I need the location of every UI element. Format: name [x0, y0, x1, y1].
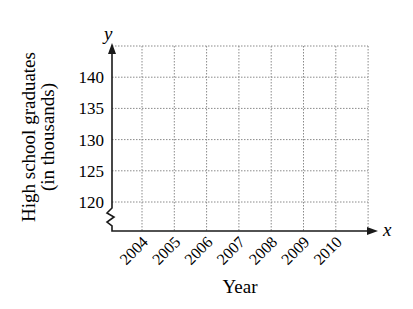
chart: y x 120125130135140 20042005200620072008… — [0, 0, 413, 309]
y-axis-title: High school graduates (in thousands) — [18, 52, 59, 222]
x-tick-label: 2006 — [181, 233, 216, 268]
y-axis-line — [107, 52, 370, 231]
x-tick-label: 2004 — [116, 233, 151, 268]
y-axis-title-line-1: High school graduates — [18, 52, 39, 222]
x-variable-label: x — [382, 219, 392, 240]
x-tick-label: 2007 — [213, 233, 248, 268]
x-axis-title: Year — [222, 276, 258, 297]
x-tick-label: 2005 — [149, 233, 184, 268]
y-axis-title-line-2: (in thousands) — [37, 83, 59, 191]
y-tick-label: 135 — [79, 99, 105, 118]
x-tick-labels: 2004200520062007200820092010 — [116, 233, 344, 268]
axes — [107, 43, 378, 235]
y-axis-arrow-icon — [108, 43, 116, 54]
y-tick-labels: 120125130135140 — [79, 68, 105, 212]
y-tick-label: 140 — [79, 68, 105, 87]
x-tick-label: 2008 — [246, 233, 281, 268]
x-tick-label: 2010 — [310, 233, 345, 268]
x-axis-arrow-icon — [367, 227, 378, 235]
y-tick-label: 120 — [79, 193, 105, 212]
grid-lines — [112, 46, 368, 231]
x-tick-label: 2009 — [278, 233, 313, 268]
y-tick-label: 130 — [79, 131, 105, 150]
y-tick-label: 125 — [79, 162, 105, 181]
y-variable-label: y — [102, 23, 113, 44]
